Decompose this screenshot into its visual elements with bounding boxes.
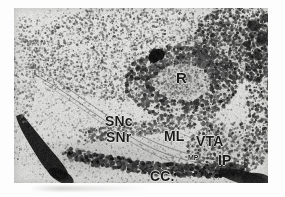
label-mammillary-peduncle: MP	[188, 154, 199, 161]
label-substantia-nigra-compacta: SNc	[105, 114, 133, 128]
paper-margin-smudge	[30, 186, 150, 191]
brain-section-image: RSNcSNrMLVTAMPIPCC.	[14, 8, 268, 183]
label-ventral-tegmental-area: VTA	[196, 134, 224, 148]
label-crus-cerebri: CC.	[150, 169, 175, 183]
figure-root: RSNcSNrMLVTAMPIPCC.	[0, 0, 285, 197]
label-medial-lemniscus: ML	[164, 129, 185, 143]
label-red-nucleus: R	[176, 70, 187, 85]
label-substantia-nigra-reticulata: SNr	[106, 130, 132, 144]
annotation-layer: RSNcSNrMLVTAMPIPCC.	[14, 8, 268, 183]
label-interpeduncular-nucleus: IP	[218, 153, 232, 167]
